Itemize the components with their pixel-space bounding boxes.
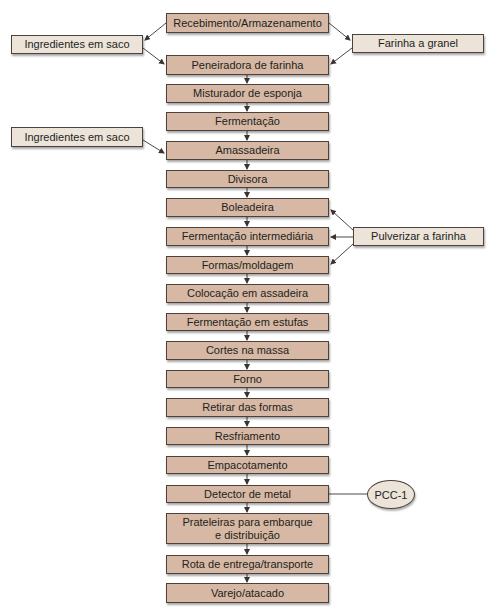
step-scoring: Cortes na massa [166, 341, 329, 360]
step-sponge-mixer: Misturador de esponja [166, 84, 329, 103]
critical-control-point-badge: PCC-1 [367, 480, 415, 509]
step-rounder: Boleadeira [166, 198, 329, 217]
input-dusting-flour: Pulverizar a farinha [353, 227, 484, 246]
input-bagged-ingredients-2: Ingredientes em saco [11, 127, 143, 147]
step-oven: Forno [166, 370, 329, 388]
step-depanning: Retirar das formas [166, 398, 329, 417]
input-bagged-ingredients: Ingredientes em saco [11, 35, 143, 54]
step-kneader: Amassadeira [166, 141, 329, 160]
step-retail-wholesale: Varejo/atacado [166, 583, 329, 603]
step-shipping-racks: Prateleiras para embarque e distribuição [166, 513, 329, 544]
step-proof-box: Fermentação em estufas [166, 313, 329, 331]
input-bulk-flour: Farinha a granel [352, 34, 484, 53]
step-intermediate-proofing: Fermentação intermediária [166, 227, 329, 246]
step-panning: Colocação em assadeira [166, 284, 329, 303]
step-receiving-storage: Recebimento/Armazenamento [166, 13, 329, 33]
step-metal-detector: Detector de metal [166, 485, 329, 503]
step-fermentation: Fermentação [166, 112, 329, 131]
step-packaging: Empacotamento [166, 456, 329, 474]
step-delivery-route: Rota de entrega/transporte [166, 555, 329, 574]
step-molding: Formas/moldagem [166, 256, 329, 274]
step-divider: Divisora [166, 170, 329, 188]
step-flour-sifter: Peneiradora de farinha [166, 55, 329, 75]
step-cooling: Resfriamento [166, 427, 329, 445]
